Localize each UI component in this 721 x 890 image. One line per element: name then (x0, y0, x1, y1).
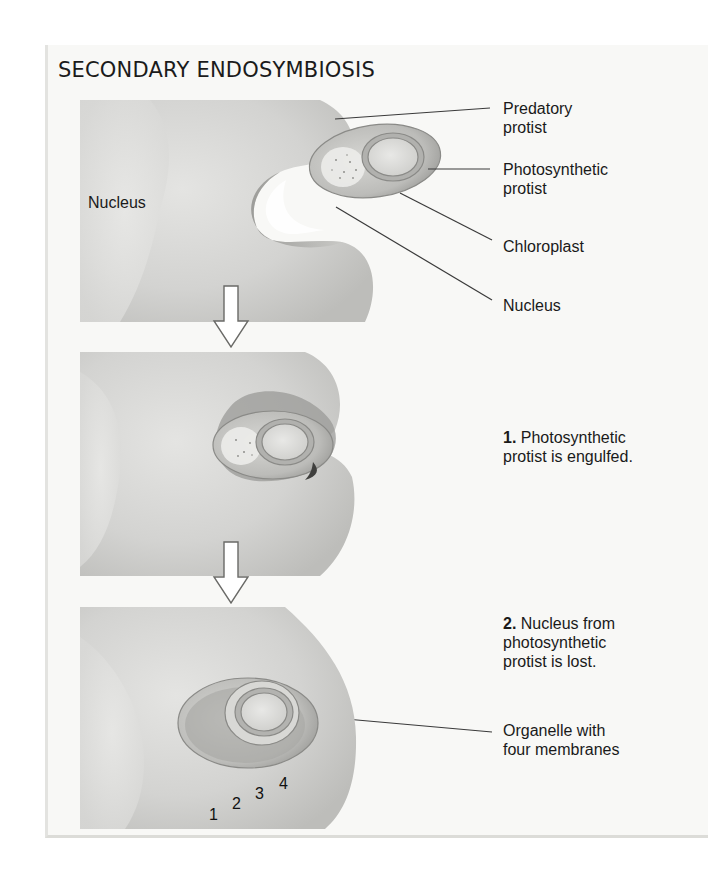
host-nucleus-label: Nucleus (88, 193, 146, 212)
down-arrow-icon (212, 285, 250, 349)
down-arrow-icon (212, 541, 250, 605)
panel-stage-2 (80, 607, 380, 829)
figure-title: SECONDARY ENDOSYMBIOSIS (58, 58, 375, 82)
label-photosynthetic-protist: Photosynthetic protist (503, 160, 608, 198)
membrane-number-1: 1 (209, 806, 218, 824)
host-cell-illustration (80, 607, 380, 829)
membrane-number-2: 2 (232, 795, 241, 813)
label-protist-nucleus: Nucleus (503, 296, 561, 315)
step-2-text: 2. Nucleus from photosynthetic protist i… (503, 614, 615, 671)
label-predatory-protist: Predatory protist (503, 99, 572, 137)
membrane-number-3: 3 (255, 785, 264, 803)
label-chloroplast: Chloroplast (503, 237, 584, 256)
step-1-text: 1. Photosynthetic protist is engulfed. (503, 428, 633, 466)
label-four-membrane-organelle: Organelle with four membranes (503, 721, 620, 759)
membrane-number-4: 4 (279, 775, 288, 793)
